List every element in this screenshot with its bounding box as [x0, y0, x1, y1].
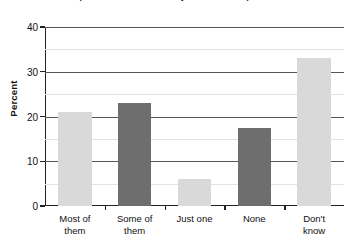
bar	[178, 179, 211, 206]
x-tick-0	[105, 206, 106, 210]
plot-area: 010203040 Most of themSome of themJust o…	[45, 27, 344, 206]
bar	[58, 112, 91, 206]
y-tick-label-0: 0	[32, 201, 38, 212]
x-tick-label: Some of them	[117, 213, 152, 236]
x-tick-label: None	[243, 213, 266, 225]
y-tick-label-10: 10	[27, 156, 38, 167]
gridline-40	[45, 27, 344, 28]
bar	[297, 58, 330, 206]
x-tick-1	[165, 206, 166, 210]
y-axis-title: Percent	[8, 69, 19, 129]
y-tick-40	[40, 26, 45, 27]
y-tick-label-30: 30	[27, 66, 38, 77]
y-tick-label-40: 40	[27, 22, 38, 33]
y-tick-30	[40, 71, 45, 72]
bar	[118, 103, 151, 206]
x-tick-3	[284, 206, 285, 210]
y-tick-20	[40, 116, 45, 117]
y-tick-0	[40, 205, 45, 206]
x-tick-label: Don't know	[303, 213, 325, 236]
chart-title: September 11 attacks: the hijackers were…	[0, 0, 353, 5]
x-tick-label: Just one	[177, 213, 213, 225]
y-tick-10	[40, 161, 45, 162]
bar	[238, 128, 271, 206]
x-tick-2	[224, 206, 225, 210]
bar-chart: September 11 attacks: the hijackers were…	[0, 0, 353, 249]
y-tick-label-20: 20	[27, 111, 38, 122]
x-tick-label: Most of them	[59, 213, 90, 236]
gridline-minor-35	[45, 49, 344, 50]
